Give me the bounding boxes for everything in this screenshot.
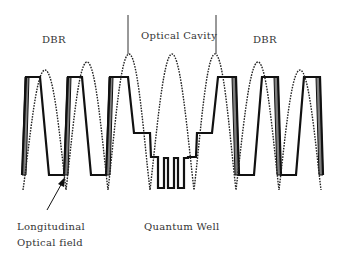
dbr-left-label: DBR (42, 34, 66, 45)
longitudinal-label-line2: Optical field (17, 237, 83, 248)
longitudinal-label-line1: Longitudinal (17, 221, 85, 232)
optical-cavity-label: Optical Cavity (141, 30, 217, 41)
quantum-well-label: Quantum Well (144, 221, 220, 232)
pointer-arrow (47, 177, 65, 210)
dbr-right-label: DBR (253, 34, 277, 45)
vcsel-diagram: DBR Optical Cavity DBR Longitudinal Opti… (0, 0, 345, 256)
